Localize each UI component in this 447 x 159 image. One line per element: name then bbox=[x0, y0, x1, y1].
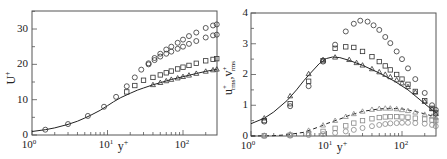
data-point-square bbox=[306, 79, 310, 83]
left-axis-ticks bbox=[32, 11, 206, 135]
data-point-circle bbox=[169, 49, 174, 54]
left-xtick-1: 100 bbox=[22, 138, 37, 150]
data-point-circle bbox=[422, 90, 427, 95]
data-point-square bbox=[158, 73, 162, 77]
data-point-circle bbox=[175, 40, 180, 45]
figure: 0 10 20 30 100 101 102 y+ U+ 0 1 2 3 4 1… bbox=[0, 0, 447, 159]
right-ytick-1: 1 bbox=[243, 98, 249, 110]
right-ytick-4: 4 bbox=[243, 6, 249, 18]
data-point-square bbox=[383, 64, 387, 68]
data-point-circle bbox=[181, 37, 186, 42]
data-point-circle bbox=[388, 41, 393, 46]
left-ytick-10: 10 bbox=[17, 93, 29, 105]
data-point-circle bbox=[175, 46, 180, 51]
data-point-square bbox=[333, 126, 337, 130]
data-point-circle bbox=[413, 121, 418, 126]
figure-svg: 0 10 20 30 100 101 102 y+ U+ 0 1 2 3 4 1… bbox=[0, 0, 447, 159]
left-ytick-20: 20 bbox=[17, 57, 29, 69]
data-point-triangle bbox=[383, 106, 388, 110]
data-point-circle bbox=[383, 122, 388, 127]
data-point-square bbox=[181, 65, 185, 69]
left-xtick-100: 102 bbox=[175, 138, 190, 150]
right-y-axis-title: u+rms,v+rms bbox=[221, 61, 237, 95]
data-point-square bbox=[352, 45, 356, 49]
data-point-square bbox=[394, 114, 398, 118]
data-point-circle bbox=[365, 19, 370, 24]
series-square bbox=[125, 56, 219, 94]
data-point-square bbox=[344, 124, 348, 128]
data-point-circle bbox=[394, 121, 399, 126]
data-point-circle bbox=[413, 77, 418, 82]
data-point-circle bbox=[186, 34, 191, 39]
data-point-circle bbox=[388, 121, 393, 126]
data-point-square bbox=[377, 59, 381, 63]
data-point-square bbox=[383, 115, 387, 119]
data-point-circle bbox=[306, 84, 311, 89]
right-x-axis-title: y+ bbox=[337, 139, 348, 154]
data-point-circle bbox=[203, 35, 208, 40]
series-line bbox=[32, 69, 217, 131]
data-point-circle bbox=[306, 133, 311, 138]
data-point-square bbox=[360, 118, 364, 122]
data-point-circle bbox=[114, 94, 119, 99]
right-chart: 0 1 2 3 4 100 101 102 y+ u+rms,v+rms bbox=[221, 6, 438, 154]
data-point-square bbox=[344, 45, 348, 49]
data-point-circle bbox=[383, 34, 388, 39]
data-point-square bbox=[125, 90, 129, 94]
left-y-axis-title: U+ bbox=[3, 71, 18, 85]
left-x-axis-title: y+ bbox=[118, 138, 129, 153]
data-point-circle bbox=[194, 39, 199, 44]
right-ytick-2: 2 bbox=[243, 67, 249, 79]
data-point-circle bbox=[343, 29, 348, 34]
data-point-square bbox=[141, 78, 145, 82]
data-point-square bbox=[194, 61, 198, 65]
data-point-square bbox=[413, 116, 417, 120]
data-point-circle bbox=[400, 57, 405, 62]
data-point-circle bbox=[360, 126, 365, 131]
data-point-circle bbox=[194, 30, 199, 35]
data-point-circle bbox=[422, 121, 427, 126]
data-point-square bbox=[133, 83, 137, 87]
data-point-square bbox=[204, 59, 208, 63]
data-point-circle bbox=[405, 120, 410, 125]
right-ytick-3: 3 bbox=[243, 37, 249, 49]
data-point-square bbox=[151, 75, 155, 79]
data-point-circle bbox=[124, 84, 129, 89]
data-point-square bbox=[175, 67, 179, 71]
data-point-square bbox=[360, 49, 364, 53]
series-triangle bbox=[262, 55, 438, 120]
data-point-circle bbox=[394, 49, 399, 54]
data-point-square bbox=[187, 63, 191, 67]
data-point-triangle bbox=[369, 107, 374, 111]
data-point-square bbox=[352, 121, 356, 125]
data-point-circle bbox=[333, 130, 338, 135]
data-point-square bbox=[164, 71, 168, 75]
left-xtick-10: 101 bbox=[99, 138, 114, 150]
right-xtick-10: 101 bbox=[318, 139, 333, 151]
left-ytick-30: 30 bbox=[17, 22, 29, 34]
data-point-circle bbox=[132, 75, 137, 80]
series-circle bbox=[262, 18, 438, 124]
data-point-circle bbox=[181, 44, 186, 49]
left-chart: 0 10 20 30 100 101 102 y+ U+ bbox=[3, 11, 219, 153]
data-point-circle bbox=[358, 18, 363, 23]
data-point-circle bbox=[400, 120, 405, 125]
data-point-square bbox=[388, 114, 392, 118]
data-point-triangle bbox=[394, 77, 399, 81]
data-point-circle bbox=[186, 41, 191, 46]
data-point-circle bbox=[351, 21, 356, 26]
data-point-square bbox=[388, 68, 392, 72]
right-xtick-100: 102 bbox=[394, 139, 409, 151]
data-point-triangle bbox=[388, 74, 393, 78]
series-circle bbox=[43, 22, 219, 132]
data-point-circle bbox=[371, 23, 376, 28]
data-point-square bbox=[377, 115, 381, 119]
data-point-circle bbox=[169, 44, 174, 49]
data-point-square bbox=[370, 54, 374, 58]
data-point-circle bbox=[139, 67, 144, 72]
right-data-series bbox=[251, 18, 438, 138]
data-point-square bbox=[370, 117, 374, 121]
data-point-circle bbox=[369, 124, 374, 129]
data-point-square bbox=[394, 72, 398, 76]
data-point-circle bbox=[405, 66, 410, 71]
